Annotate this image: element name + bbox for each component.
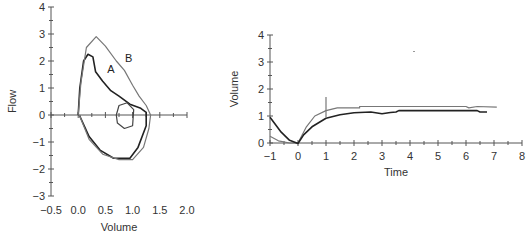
y-tick-label: 4 bbox=[258, 29, 264, 41]
x-tick-label: 8 bbox=[519, 150, 525, 162]
y-tick-label: 0 bbox=[258, 137, 264, 149]
x-tick-label: 1 bbox=[323, 150, 329, 162]
volume-time-chart: 01234−1012345678TimeVolume bbox=[228, 29, 525, 178]
y-axis-title: Flow bbox=[6, 90, 18, 113]
annotation-B: B bbox=[125, 52, 132, 64]
series-gray-line bbox=[270, 107, 497, 144]
x-tick-label: 0.0 bbox=[71, 204, 86, 216]
x-tick-label: 1.5 bbox=[152, 204, 167, 216]
annotation-A: A bbox=[107, 63, 115, 75]
series-black-line bbox=[270, 111, 487, 144]
x-tick-label: 3 bbox=[379, 150, 385, 162]
y-tick-label: 0 bbox=[39, 109, 45, 121]
x-tick-label: 4 bbox=[407, 150, 413, 162]
y-tick-label: 3 bbox=[258, 56, 264, 68]
y-tick-label: −1 bbox=[32, 136, 45, 148]
y-tick-label: 3 bbox=[39, 28, 45, 40]
x-tick-label: 1.0 bbox=[125, 204, 140, 216]
y-tick-label: 1 bbox=[258, 110, 264, 122]
x-axis-title: Volume bbox=[101, 221, 138, 233]
y-tick-label: 4 bbox=[39, 1, 45, 13]
figure: −3−2−101234−0.50.00.51.01.52.0VolumeFlow… bbox=[0, 0, 529, 238]
y-axis-title: Volume bbox=[228, 71, 240, 108]
y-tick-label: 1 bbox=[39, 82, 45, 94]
x-tick-label: 2.0 bbox=[179, 204, 194, 216]
x-tick-label: −0.5 bbox=[40, 204, 62, 216]
x-tick-label: 0 bbox=[295, 150, 301, 162]
x-tick-label: 2 bbox=[351, 150, 357, 162]
x-tick-label: 7 bbox=[491, 150, 497, 162]
x-tick-label: 0.5 bbox=[98, 204, 113, 216]
y-tick-label: 2 bbox=[258, 83, 264, 95]
x-tick-label: 6 bbox=[463, 150, 469, 162]
flow-volume-chart: −3−2−101234−0.50.00.51.01.52.0VolumeFlow… bbox=[6, 1, 195, 233]
speck bbox=[413, 51, 415, 52]
x-axis-title: Time bbox=[384, 166, 408, 178]
y-tick-label: −3 bbox=[32, 190, 45, 202]
y-tick-label: −2 bbox=[32, 163, 45, 175]
y-tick-label: 2 bbox=[39, 55, 45, 67]
x-tick-label: −1 bbox=[264, 150, 277, 162]
x-tick-label: 5 bbox=[435, 150, 441, 162]
